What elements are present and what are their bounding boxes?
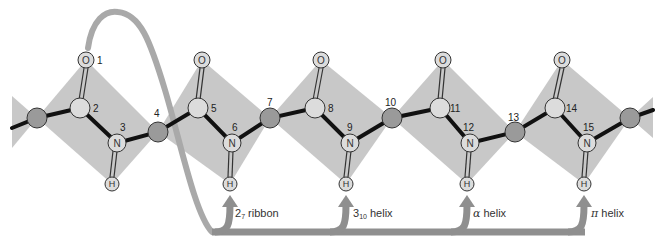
hydrogen-symbol: H — [581, 179, 588, 189]
nitrogen-symbol: N — [113, 138, 120, 149]
arrow-shaft-alpha — [451, 205, 467, 232]
atom-number-13: 13 — [508, 112, 520, 123]
peptide-diagram: O O O O O N N N N N H H H H H 1 2 3 4 5 … — [0, 0, 665, 241]
c-alpha-atom-13 — [505, 122, 525, 142]
atom-number-2: 2 — [93, 103, 99, 114]
label-subscript: 10 — [359, 213, 367, 220]
oxygen-symbol: O — [317, 55, 325, 66]
oxygen-symbol: O — [558, 55, 566, 66]
label-suffix: helix — [367, 207, 393, 219]
atom-number-3: 3 — [120, 122, 126, 133]
nitrogen-symbol: N — [228, 138, 235, 149]
carbonyl-carbon-5 — [188, 98, 208, 118]
label-suffix: helix — [480, 207, 506, 219]
atom-number-11: 11 — [450, 103, 461, 114]
atom-number-9: 9 — [347, 122, 353, 133]
atom-number-4: 4 — [154, 108, 160, 119]
label-suffix: ribbon — [245, 207, 279, 219]
atom-number-8: 8 — [328, 103, 334, 114]
hydrogen-symbol: H — [109, 179, 116, 189]
hydrogen-symbol: H — [464, 179, 471, 189]
oxygen-symbol: O — [439, 55, 447, 66]
arrow-labels: 27 ribbon 310 helix α helix π helix — [235, 207, 624, 220]
atom-number-12: 12 — [463, 122, 475, 133]
atom-number-7: 7 — [267, 97, 273, 108]
label-2-7-ribbon: 27 ribbon — [235, 207, 279, 220]
atom-number-15: 15 — [583, 122, 595, 133]
oxygen-symbol: O — [198, 55, 206, 66]
carbonyl-carbon-8 — [305, 98, 325, 118]
c-alpha-atom-4 — [148, 122, 168, 142]
hydrogen-symbol: H — [227, 179, 234, 189]
atom-number-10: 10 — [385, 97, 397, 108]
c-alpha-atom — [27, 108, 47, 128]
c-alpha-atom-7 — [260, 108, 280, 128]
carbonyl-carbon-14 — [545, 98, 565, 118]
label-pi-helix: π helix — [590, 207, 624, 220]
arrow-shaft-pi — [568, 205, 584, 232]
oxygen-symbol: O — [82, 55, 90, 66]
c-alpha-atom-10 — [382, 108, 402, 128]
peptide-planes — [12, 60, 653, 184]
label-suffix: helix — [598, 207, 624, 219]
label-alpha-helix: α helix — [473, 207, 507, 220]
nitrogen-symbol: N — [346, 138, 353, 149]
carbonyl-carbon-2 — [70, 98, 90, 118]
arrow-shaft-3-10 — [330, 205, 346, 232]
arrow-shaft-2-7 — [215, 205, 230, 232]
arrowhead-alpha — [459, 195, 475, 207]
atom-number-1: 1 — [97, 55, 103, 66]
carbonyl-carbon-11 — [430, 98, 450, 118]
nitrogen-symbol: N — [583, 138, 590, 149]
c-alpha-atom — [620, 108, 640, 128]
atom-number-5: 5 — [211, 103, 217, 114]
nitrogen-symbol: N — [466, 138, 473, 149]
arrowhead-pi — [576, 195, 592, 207]
label-3-10-helix: 310 helix — [353, 207, 393, 220]
arrowhead-2-7 — [222, 195, 238, 207]
atom-number-14: 14 — [566, 103, 578, 114]
arrowhead-3-10 — [338, 195, 354, 207]
atom-number-6: 6 — [232, 122, 238, 133]
hydrogen-symbol: H — [343, 179, 350, 189]
